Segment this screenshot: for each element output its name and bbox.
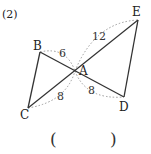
point-e-label: E: [132, 6, 141, 18]
triangle-diagram: [0, 0, 151, 154]
segment-ed: [124, 20, 138, 97]
answer-paren-open: (: [50, 131, 57, 148]
length-ab: 6: [59, 48, 66, 59]
answer-paren-close: ): [110, 131, 117, 148]
point-a-label: A: [79, 65, 88, 77]
problem-number: (2): [2, 9, 18, 20]
point-b-label: B: [33, 40, 42, 52]
length-ac: 8: [57, 91, 64, 102]
length-ae: 12: [92, 31, 106, 42]
point-d-label: D: [119, 101, 129, 113]
point-c-label: C: [20, 109, 29, 121]
length-ad: 8: [88, 85, 95, 96]
